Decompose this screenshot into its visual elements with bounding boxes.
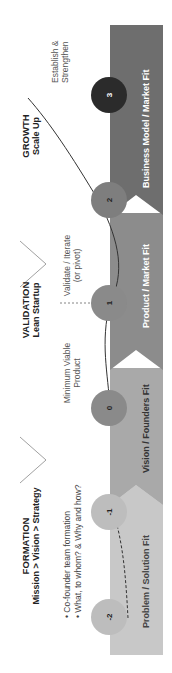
- stage-title: GROWTH: [20, 111, 31, 161]
- startup-stages-diagram: -2 -1 0 1 2 3 Problem / Solution Fit Vis…: [0, 0, 172, 673]
- note-mvp: Minimum Viable Product: [62, 328, 82, 418]
- band-vision-founders: [110, 368, 163, 505]
- node-3: 3: [91, 77, 127, 113]
- note-validate-iterate: Validate / Iterate (or pivot): [62, 218, 82, 313]
- bullet-item: Co-founder team formation: [62, 485, 73, 618]
- stage-title: FORMATION: [20, 471, 31, 621]
- node-minus-2: -2: [91, 599, 127, 635]
- node-0: 0: [91, 390, 127, 426]
- band-label-problem-solution: Problem / Solution Fit: [141, 535, 151, 628]
- node-2: 2: [91, 182, 127, 218]
- stage-title: VALIDATION: [20, 265, 31, 355]
- note-establish: Establish & Strengthen: [50, 13, 70, 83]
- stage-growth: GROWTH Scale Up: [20, 111, 42, 161]
- formation-bullets: Co-founder team formation What, to whom?…: [62, 485, 84, 618]
- stage-formation: FORMATION Mission > Vision > Strategy: [20, 471, 42, 621]
- stage-subtitle: Scale Up: [31, 111, 42, 161]
- band-label-business-model: Business Model / Market Fit: [141, 69, 151, 188]
- node-1: 1: [91, 285, 127, 321]
- stage-subtitle: Mission > Vision > Strategy: [31, 471, 42, 621]
- bullet-item: What, to whom? & Why and how?: [73, 485, 84, 618]
- band-label-product-market: Product / Market Fit: [141, 244, 151, 328]
- stage-subtitle: Lean Startup: [31, 265, 42, 355]
- band-label-vision-founders: Vision / Founders Fit: [141, 384, 151, 473]
- node-minus-1: -1: [91, 494, 127, 530]
- stage-validation: VALIDATION Lean Startup: [20, 265, 42, 355]
